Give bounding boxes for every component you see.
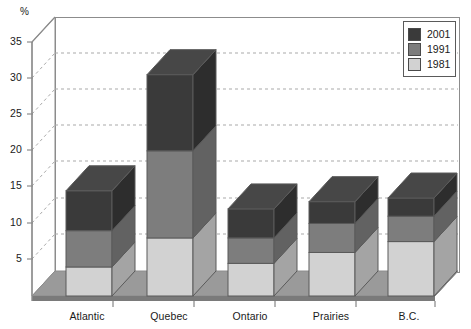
bar-segment-prairies-1991[interactable] — [309, 223, 355, 252]
bar-segment-bc-1991[interactable] — [388, 216, 434, 241]
bar-segment-prairies-1981[interactable] — [309, 252, 355, 296]
x-axis-label-quebec: Quebec — [124, 310, 214, 322]
legend-item-1981: 1981 — [408, 57, 450, 71]
bar-segment-ontario-2001[interactable] — [228, 209, 274, 238]
bar-bc[interactable] — [388, 173, 457, 296]
legend-item-1991: 1991 — [408, 42, 450, 56]
bar-ontario[interactable] — [228, 184, 297, 296]
bar-segment-atlantic-2001[interactable] — [66, 191, 112, 231]
bar-prairies[interactable] — [309, 177, 378, 296]
bar-segment-bc-1981[interactable] — [388, 242, 434, 296]
bar-quebec[interactable] — [147, 50, 216, 296]
bar-segment-atlantic-1991[interactable] — [66, 231, 112, 267]
legend-item-2001: 2001 — [408, 27, 450, 41]
bar-segment-prairies-2001[interactable] — [309, 202, 355, 224]
bar-segment-ontario-1991[interactable] — [228, 238, 274, 263]
legend-label-1991: 1991 — [427, 44, 450, 55]
bar-segment-quebec-1981[interactable] — [147, 238, 193, 296]
legend-swatch-1991 — [408, 43, 421, 56]
legend-swatch-1981 — [408, 58, 421, 71]
x-axis-label-ontario: Ontario — [205, 310, 295, 322]
x-axis-label-bc: B.C. — [364, 310, 454, 322]
chart-container: % 35 30 25 20 15 10 5 Atlantic Quebec On… — [0, 0, 471, 329]
legend-label-2001: 2001 — [427, 29, 450, 40]
bar-atlantic[interactable] — [66, 166, 135, 296]
bar-segment-bc-2001[interactable] — [388, 198, 434, 216]
legend-label-1981: 1981 — [427, 59, 450, 70]
legend: 2001 1991 1981 — [403, 21, 456, 77]
bars-svg — [0, 0, 471, 329]
bar-segment-quebec-2001[interactable] — [147, 75, 193, 151]
bar-segment-atlantic-1981[interactable] — [66, 267, 112, 296]
x-axis-label-atlantic: Atlantic — [42, 310, 132, 322]
bar-segment-ontario-1981[interactable] — [228, 263, 274, 296]
bar-segment-quebec-1991[interactable] — [147, 151, 193, 238]
x-axis-label-prairies: Prairies — [286, 310, 376, 322]
legend-swatch-2001 — [408, 28, 421, 41]
